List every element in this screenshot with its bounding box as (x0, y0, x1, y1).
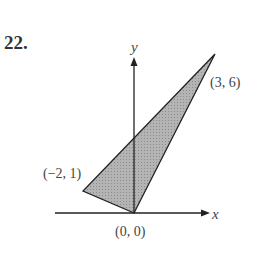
vertex-label-origin: (0, 0) (115, 224, 146, 240)
x-axis-arrow-icon (201, 210, 210, 217)
triangle-diagram: y x (3, 6) (−2, 1) (0, 0) (0, 0, 261, 257)
shaded-triangle (83, 54, 215, 213)
y-axis-label: y (129, 39, 138, 55)
vertex-label-neg2-1: (−2, 1) (43, 166, 82, 182)
x-axis-label: x (211, 206, 219, 222)
y-axis-arrow-icon (131, 57, 138, 66)
vertex-label-3-6: (3, 6) (210, 75, 241, 91)
